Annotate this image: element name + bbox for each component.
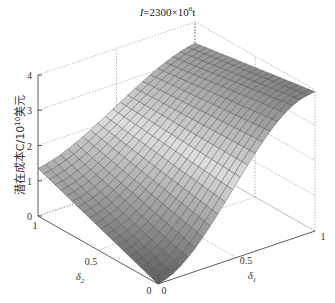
- x-tick-label: 1: [321, 231, 326, 242]
- x-tick-label: 0: [162, 285, 167, 296]
- z-tick-label: 1: [27, 176, 32, 187]
- surface-plot: 0123410.5000.51δ2δ1潜在成本C/1010美元: [0, 0, 335, 303]
- z-tick-label: 2: [27, 141, 32, 152]
- z-tick-label: 4: [27, 70, 32, 81]
- z-tick-label: 0: [27, 211, 32, 222]
- surface-mesh: [38, 43, 315, 284]
- z-tick-label: 3: [27, 105, 32, 116]
- y-tick-label: 0: [147, 285, 152, 296]
- y-axis-label: δ2: [76, 270, 85, 285]
- y-tick-label: 1: [33, 220, 38, 231]
- z-axis-label: 潜在成本C/1010美元: [13, 95, 27, 195]
- x-tick-label: 0.5: [240, 255, 253, 266]
- y-tick-label: 0.5: [85, 256, 98, 267]
- x-axis-label: δ1: [248, 269, 257, 284]
